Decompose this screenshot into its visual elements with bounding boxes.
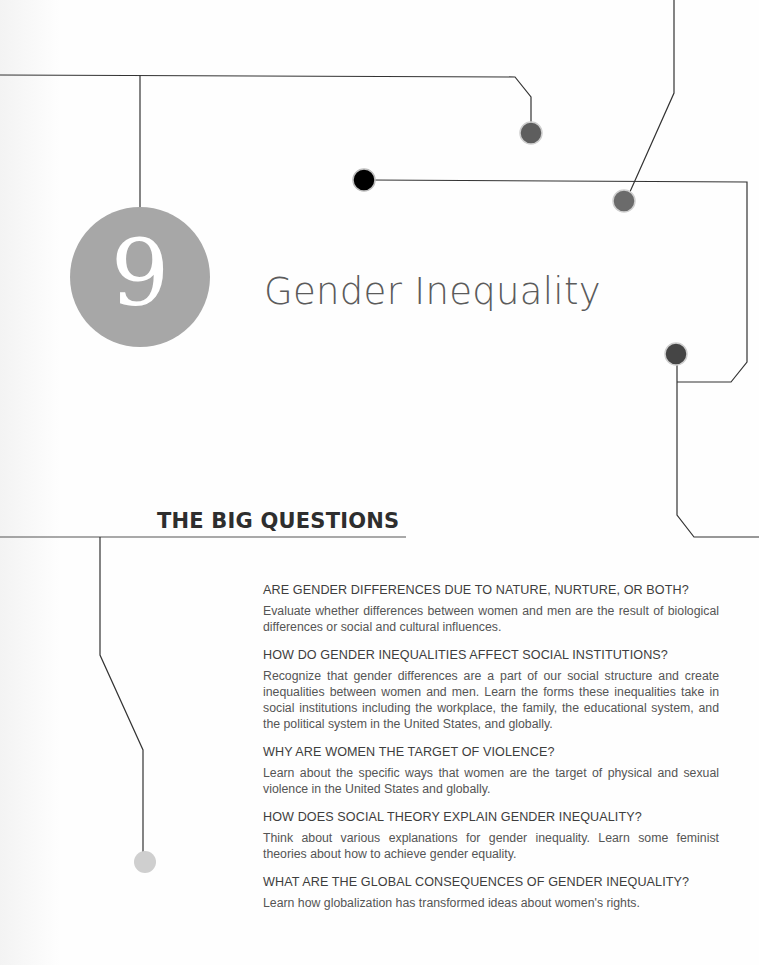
question-item: HOW DOES SOCIAL THEORY EXPLAIN GENDER IN… [263, 809, 719, 862]
section-heading: THE BIG QUESTIONS [157, 509, 399, 533]
big-questions-list: ARE GENDER DIFFERENCES DUE TO NATURE, NU… [263, 582, 719, 923]
question-title: HOW DOES SOCIAL THEORY EXPLAIN GENDER IN… [263, 809, 719, 826]
question-item: HOW DO GENDER INEQUALITIES AFFECT SOCIAL… [263, 647, 719, 732]
question-item: WHY ARE WOMEN THE TARGET OF VIOLENCE? Le… [263, 744, 719, 797]
question-body: Think about various explanations for gen… [263, 830, 719, 862]
question-item: WHAT ARE THE GLOBAL CONSEQUENCES OF GEND… [263, 874, 719, 911]
chapter-opener-page: 9 Gender Inequality THE BIG QUESTIONS AR… [0, 0, 759, 965]
question-title: WHY ARE WOMEN THE TARGET OF VIOLENCE? [263, 744, 719, 761]
question-title: ARE GENDER DIFFERENCES DUE TO NATURE, NU… [263, 582, 719, 599]
left-connector-line [100, 537, 143, 855]
chapter-number: 9 [111, 228, 170, 320]
lower-right-connector-line [677, 360, 759, 537]
question-body: Recognize that gender differences are a … [263, 668, 719, 732]
question-body: Learn about the specific ways that women… [263, 765, 719, 797]
chapter-number-badge: 9 [70, 207, 210, 347]
question-body: Learn how globalization has transformed … [263, 895, 719, 911]
question-title: HOW DO GENDER INEQUALITIES AFFECT SOCIAL… [263, 647, 719, 664]
right-top-connector-line [629, 0, 674, 194]
dot-right-mid [613, 190, 635, 212]
top-connector-line [0, 75, 531, 124]
dot-right-lower [665, 343, 687, 365]
dot-bottom-left [134, 851, 156, 873]
question-title: WHAT ARE THE GLOBAL CONSEQUENCES OF GEND… [263, 874, 719, 891]
dot-top [520, 122, 542, 144]
dot-black [353, 169, 375, 191]
question-body: Evaluate whether differences between wom… [263, 603, 719, 635]
chapter-title: Gender Inequality [264, 270, 601, 313]
question-item: ARE GENDER DIFFERENCES DUE TO NATURE, NU… [263, 582, 719, 635]
